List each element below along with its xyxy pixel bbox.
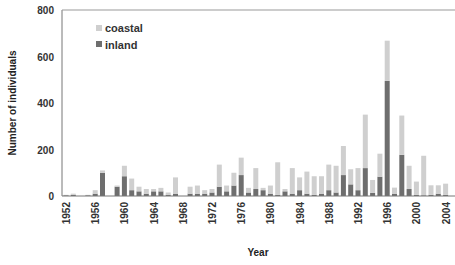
x-tick-label: 1996 xyxy=(382,202,393,225)
bar-inland-1965 xyxy=(158,191,163,196)
x-tick-label: 1980 xyxy=(265,202,276,225)
bar-coastal-1970 xyxy=(195,186,200,194)
bar-inland-1982 xyxy=(283,191,288,196)
bar-coastal-1965 xyxy=(158,188,163,191)
bar-coastal-1967 xyxy=(173,177,178,193)
bar-inland-1988 xyxy=(326,190,331,196)
y-tick-label: 600 xyxy=(37,52,54,63)
x-tick-label: 2004 xyxy=(441,202,452,225)
bar-inland-1978 xyxy=(253,189,258,196)
bar-inland-1975 xyxy=(231,186,236,196)
legend-label-coastal: coastal xyxy=(105,22,143,34)
x-tick-label: 1988 xyxy=(324,202,335,225)
legend-swatch-inland xyxy=(96,41,102,47)
bar-inland-1973 xyxy=(217,187,222,196)
bar-coastal-1960 xyxy=(122,166,127,176)
bar-coastal-1988 xyxy=(326,165,331,191)
bar-coastal-1980 xyxy=(268,186,273,194)
bar-coastal-1966 xyxy=(166,193,171,195)
x-axis-label: Year xyxy=(247,247,268,258)
x-tick-label: 1976 xyxy=(236,202,247,225)
bar-coastal-1975 xyxy=(231,173,236,186)
x-tick-label: 1972 xyxy=(207,202,218,225)
bar-inland-1957 xyxy=(100,173,105,196)
bar-coastal-1993 xyxy=(363,115,368,168)
bar-coastal-1978 xyxy=(253,168,258,189)
bar-coastal-1982 xyxy=(283,189,288,191)
bar-inland-1995 xyxy=(377,177,382,196)
bar-coastal-1977 xyxy=(246,188,251,193)
bar-coastal-2004 xyxy=(443,184,448,195)
x-tick-label: 1984 xyxy=(295,202,306,225)
bar-inland-1959 xyxy=(115,187,120,196)
bar-coastal-1959 xyxy=(115,186,120,187)
bar-coastal-1974 xyxy=(224,186,229,192)
bar-inland-1999 xyxy=(407,189,412,196)
bar-coastal-1997 xyxy=(392,188,397,194)
y-axis-label: Number of individuals xyxy=(7,50,18,155)
bar-coastal-1994 xyxy=(370,180,375,193)
bar-coastal-1996 xyxy=(385,41,390,81)
bar-coastal-1991 xyxy=(348,169,353,184)
bar-inland-1979 xyxy=(261,190,266,196)
bar-coastal-1981 xyxy=(275,162,280,195)
bar-coastal-1963 xyxy=(144,189,149,194)
x-tick-label: 2000 xyxy=(411,202,422,225)
bar-coastal-1985 xyxy=(304,172,309,194)
bar-coastal-1990 xyxy=(341,146,346,175)
bar-coastal-1961 xyxy=(129,179,134,191)
bar-coastal-1986 xyxy=(312,176,317,195)
bar-coastal-1971 xyxy=(202,190,207,193)
y-tick-label: 400 xyxy=(37,98,54,109)
bar-coastal-1962 xyxy=(137,187,142,192)
bar-coastal-1999 xyxy=(407,166,412,189)
bar-inland-1976 xyxy=(239,175,244,196)
bar-inland-1989 xyxy=(334,193,339,196)
bar-coastal-2003 xyxy=(436,185,441,193)
bar-coastal-1984 xyxy=(297,177,302,190)
bar-coastal-1973 xyxy=(217,165,222,187)
bar-coastal-1989 xyxy=(334,166,339,193)
bar-coastal-1998 xyxy=(399,116,404,155)
bar-inland-1992 xyxy=(356,190,361,196)
bar-coastal-1953 xyxy=(71,194,76,195)
x-tick-label: 1964 xyxy=(149,202,160,225)
legend-label-inland: inland xyxy=(105,39,137,51)
bar-coastal-1964 xyxy=(151,189,156,191)
x-tick-label: 1960 xyxy=(119,202,130,225)
y-tick-label: 0 xyxy=(48,191,54,202)
bar-coastal-2002 xyxy=(429,185,434,195)
bar-coastal-1957 xyxy=(100,170,105,172)
bar-coastal-1995 xyxy=(377,154,382,177)
bar-inland-1974 xyxy=(224,191,229,196)
legend: coastal inland xyxy=(96,22,143,51)
legend-swatch-coastal xyxy=(96,25,102,31)
stacked-bar-chart: 0200400600800 19521956196019641968197219… xyxy=(0,0,455,265)
bar-inland-1993 xyxy=(363,168,368,196)
bar-inland-1990 xyxy=(341,175,346,196)
bar-coastal-1969 xyxy=(188,187,193,194)
bar-inland-1960 xyxy=(122,176,127,196)
x-tick-label: 1952 xyxy=(61,202,72,225)
bar-inland-1977 xyxy=(246,193,251,196)
y-tick-label: 800 xyxy=(37,5,54,16)
x-tick-label: 1992 xyxy=(353,202,364,225)
bar-coastal-1992 xyxy=(356,168,361,190)
x-tick-label: 1968 xyxy=(178,202,189,225)
bar-inland-1962 xyxy=(137,191,142,196)
bar-coastal-2001 xyxy=(421,156,426,196)
bar-inland-1961 xyxy=(129,190,134,196)
bar-inland-1984 xyxy=(297,190,302,196)
bar-inland-1972 xyxy=(210,193,215,196)
bar-coastal-1987 xyxy=(319,176,324,193)
x-tick-label: 1956 xyxy=(90,202,101,225)
bar-coastal-1976 xyxy=(239,158,244,175)
bar-coastal-1983 xyxy=(290,168,295,194)
bar-coastal-1956 xyxy=(93,190,98,193)
bar-inland-1964 xyxy=(151,191,156,196)
bar-coastal-1972 xyxy=(210,189,215,192)
bar-coastal-1979 xyxy=(261,188,266,190)
bar-inland-1991 xyxy=(348,184,353,196)
bar-inland-1996 xyxy=(385,81,390,196)
y-tick-label: 200 xyxy=(37,145,54,156)
